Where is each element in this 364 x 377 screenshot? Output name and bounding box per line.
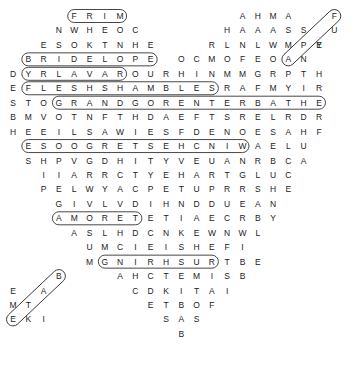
grid-letter[interactable]: W <box>83 182 97 196</box>
grid-letter[interactable]: H <box>174 168 188 182</box>
grid-letter[interactable]: T <box>205 96 219 110</box>
grid-letter[interactable]: H <box>83 81 97 95</box>
grid-letter[interactable]: N <box>205 67 219 81</box>
grid-letter[interactable]: V <box>67 154 81 168</box>
grid-letter[interactable]: A <box>236 81 250 95</box>
grid-letter[interactable]: S <box>220 269 234 283</box>
grid-letter[interactable]: L <box>98 197 112 211</box>
grid-letter[interactable]: B <box>159 81 173 95</box>
grid-letter[interactable]: Y <box>98 182 112 196</box>
grid-letter[interactable]: I <box>52 125 66 139</box>
grid-letter[interactable]: E <box>144 52 158 66</box>
grid-letter[interactable]: U <box>83 240 97 254</box>
grid-letter[interactable]: M <box>205 52 219 66</box>
grid-letter[interactable]: S <box>174 255 188 269</box>
grid-letter[interactable]: I <box>236 240 250 254</box>
grid-letter[interactable]: T <box>159 298 173 312</box>
grid-letter[interactable]: U <box>205 154 219 168</box>
grid-letter[interactable]: O <box>67 38 81 52</box>
grid-letter[interactable]: S <box>67 81 81 95</box>
grid-letter[interactable]: I <box>190 67 204 81</box>
grid-letter[interactable]: L <box>266 110 280 124</box>
grid-letter[interactable]: I <box>220 139 234 153</box>
grid-letter[interactable]: I <box>52 168 66 182</box>
grid-letter[interactable]: E <box>251 110 265 124</box>
grid-letter[interactable]: B <box>21 52 35 66</box>
grid-letter[interactable]: S <box>144 139 158 153</box>
grid-letter[interactable]: U <box>190 182 204 196</box>
grid-letter[interactable]: E <box>21 125 35 139</box>
grid-letter[interactable]: M <box>281 38 295 52</box>
grid-letter[interactable]: E <box>144 211 158 225</box>
grid-letter[interactable]: A <box>128 81 142 95</box>
grid-letter[interactable]: N <box>297 52 311 66</box>
grid-letter[interactable]: M <box>266 81 280 95</box>
grid-letter[interactable]: T <box>174 182 188 196</box>
grid-letter[interactable]: S <box>37 139 51 153</box>
grid-letter[interactable]: P <box>205 182 219 196</box>
grid-letter[interactable]: E <box>251 125 265 139</box>
grid-letter[interactable]: O <box>174 52 188 66</box>
grid-letter[interactable]: A <box>67 226 81 240</box>
grid-letter[interactable]: H <box>113 154 127 168</box>
grid-letter[interactable]: E <box>6 312 20 326</box>
grid-letter[interactable]: F <box>67 9 81 23</box>
grid-letter[interactable]: V <box>83 67 97 81</box>
grid-letter[interactable]: D <box>190 197 204 211</box>
grid-letter[interactable]: H <box>128 269 142 283</box>
grid-letter[interactable]: E <box>144 125 158 139</box>
grid-letter[interactable]: E <box>113 211 127 225</box>
grid-letter[interactable]: E <box>37 125 51 139</box>
grid-letter[interactable]: I <box>37 168 51 182</box>
grid-letter[interactable]: E <box>159 168 173 182</box>
grid-letter[interactable]: F <box>236 52 250 66</box>
grid-letter[interactable]: B <box>174 298 188 312</box>
grid-letter[interactable]: E <box>251 52 265 66</box>
grid-letter[interactable]: H <box>220 23 234 37</box>
grid-letter[interactable]: Y <box>21 67 35 81</box>
grid-letter[interactable]: D <box>98 154 112 168</box>
grid-letter[interactable]: G <box>236 168 250 182</box>
grid-letter[interactable]: H <box>312 67 326 81</box>
grid-letter[interactable]: T <box>128 168 142 182</box>
grid-letter[interactable]: M <box>144 81 158 95</box>
grid-letter[interactable]: D <box>297 110 311 124</box>
grid-letter[interactable]: W <box>236 139 250 153</box>
grid-letter[interactable]: E <box>205 211 219 225</box>
grid-letter[interactable]: L <box>67 125 81 139</box>
grid-letter[interactable]: R <box>83 9 97 23</box>
grid-letter[interactable]: R <box>251 154 265 168</box>
grid-letter[interactable]: S <box>159 312 173 326</box>
grid-letter[interactable]: M <box>266 9 280 23</box>
grid-letter[interactable]: P <box>297 38 311 52</box>
grid-letter[interactable]: T <box>281 96 295 110</box>
grid-letter[interactable]: S <box>6 96 20 110</box>
grid-letter[interactable]: I <box>297 81 311 95</box>
grid-letter[interactable]: T <box>159 211 173 225</box>
grid-letter[interactable]: M <box>220 67 234 81</box>
grid-letter[interactable]: K <box>174 226 188 240</box>
grid-letter[interactable]: A <box>52 211 66 225</box>
grid-letter[interactable]: W <box>205 226 219 240</box>
grid-letter[interactable]: T <box>220 255 234 269</box>
grid-letter[interactable]: P <box>37 182 51 196</box>
grid-letter[interactable]: E <box>21 139 35 153</box>
grid-letter[interactable]: R <box>236 96 250 110</box>
grid-letter[interactable]: K <box>83 38 97 52</box>
grid-letter[interactable]: A <box>251 197 265 211</box>
grid-letter[interactable]: D <box>205 197 219 211</box>
grid-letter[interactable]: A <box>83 96 97 110</box>
grid-letter[interactable]: E <box>190 154 204 168</box>
grid-letter[interactable]: B <box>174 327 188 341</box>
grid-letter[interactable]: A <box>281 9 295 23</box>
grid-letter[interactable]: S <box>266 125 280 139</box>
grid-letter[interactable]: E <box>190 226 204 240</box>
grid-letter[interactable]: E <box>174 96 188 110</box>
grid-letter[interactable]: H <box>159 255 173 269</box>
grid-letter[interactable]: L <box>52 67 66 81</box>
grid-letter[interactable]: F <box>251 81 265 95</box>
grid-letter[interactable]: F <box>327 9 341 23</box>
grid-letter[interactable]: N <box>83 110 97 124</box>
grid-letter[interactable]: S <box>21 154 35 168</box>
grid-letter[interactable]: A <box>113 182 127 196</box>
